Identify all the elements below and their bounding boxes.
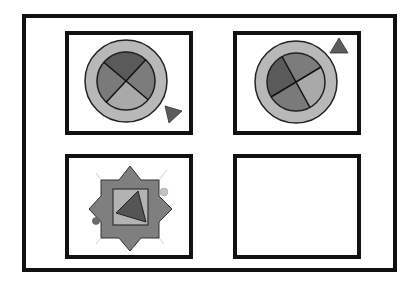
cell-bottom-left (67, 156, 191, 257)
cell-top-right (235, 33, 359, 133)
cell-top-left (67, 33, 191, 133)
puzzle-figure (0, 0, 408, 287)
dot-light (160, 188, 168, 196)
quadrant-circle (267, 53, 325, 111)
dot-dark (92, 217, 99, 224)
quadrant-circle (96, 51, 155, 110)
empty-answer-cell (235, 156, 359, 257)
cell-bottom-right (235, 156, 359, 257)
